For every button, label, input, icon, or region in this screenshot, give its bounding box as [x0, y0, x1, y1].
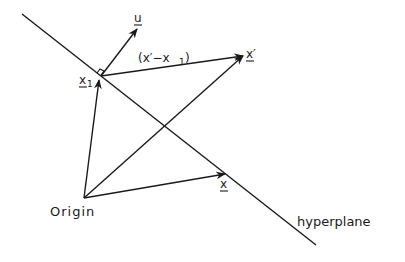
label-hyperplane: hyperplane — [297, 214, 371, 229]
label-difference-subscript: 1 — [179, 57, 185, 67]
label-x: x — [220, 177, 227, 191]
hyperplane-diagram: u x 1 (x′−x 1 ) x′ x Origin hyperplane — [0, 0, 405, 262]
label-x1: x — [79, 73, 86, 87]
label-origin: Origin — [50, 204, 95, 219]
label-u: u — [134, 11, 142, 25]
normal-vector-u — [101, 29, 137, 76]
label-x1-subscript: 1 — [87, 79, 93, 89]
label-difference: (x′−x — [138, 51, 170, 65]
vector-x-prime-minus-x1 — [101, 56, 243, 76]
label-difference-close: ) — [185, 51, 190, 65]
vector-origin-to-x — [84, 174, 225, 198]
label-x-prime: x′ — [246, 47, 256, 61]
vector-origin-to-x1 — [84, 80, 99, 198]
